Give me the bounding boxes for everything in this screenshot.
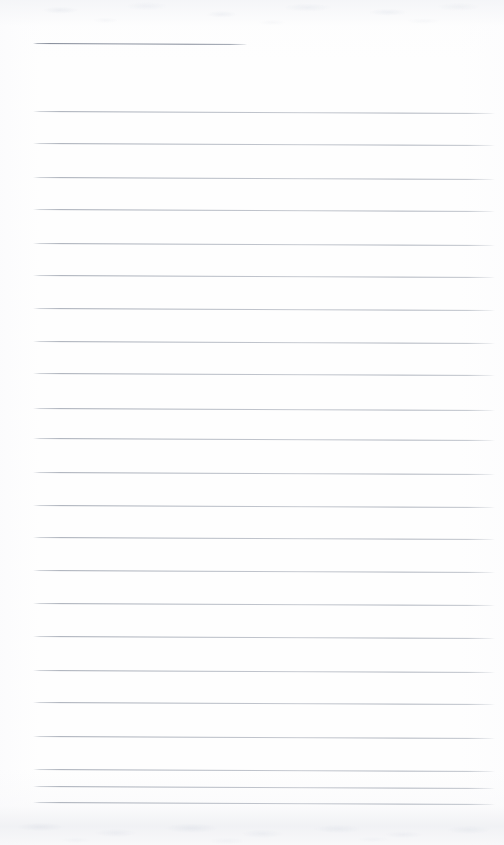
paper-surface: [0, 0, 504, 845]
ruled-line: [33, 143, 495, 146]
ruled-line: [33, 308, 495, 311]
ruled-line: [33, 177, 495, 180]
ruled-line: [33, 636, 495, 639]
title-rule: [33, 43, 247, 45]
scanned-page: [0, 0, 504, 845]
ruled-line: [33, 111, 495, 114]
ruled-line: [33, 275, 495, 278]
ruled-line: [33, 505, 495, 508]
ruled-line: [33, 341, 495, 344]
ruled-line: [33, 603, 495, 606]
ruled-line: [33, 702, 495, 705]
ruled-line: [33, 472, 495, 475]
ruled-line: [33, 373, 495, 376]
ruled-line: [33, 537, 495, 540]
ruled-line: [33, 408, 495, 411]
scan-noise-top: [0, 0, 504, 34]
ruled-line: [33, 243, 495, 246]
ruled-line: [33, 670, 495, 673]
ruled-line: [33, 736, 495, 739]
ruled-line: [33, 209, 495, 212]
ruled-line: [33, 570, 495, 573]
scan-noise-bottom: [0, 805, 504, 845]
ruled-line: [33, 769, 495, 772]
ruled-line: [33, 786, 495, 789]
ruled-line: [33, 802, 495, 805]
ruled-line: [33, 438, 495, 441]
